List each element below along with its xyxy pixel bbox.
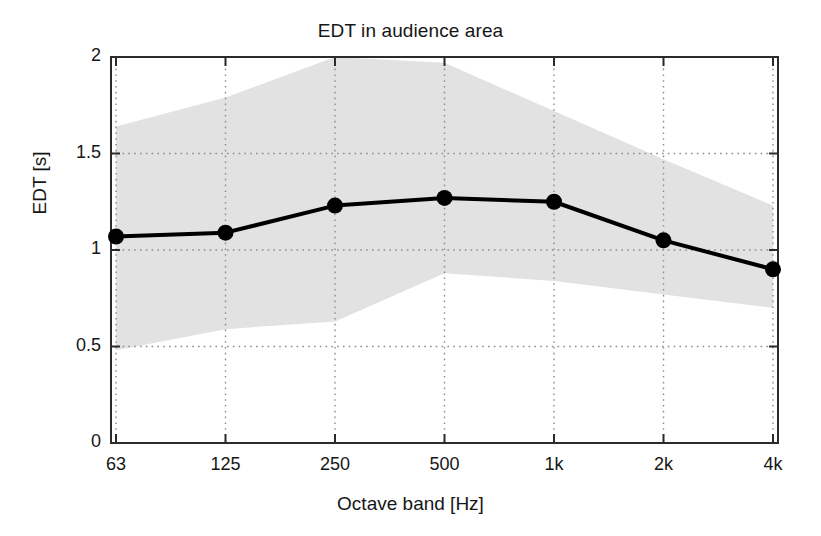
x-tick-label: 4k: [743, 454, 803, 475]
data-point-marker: [327, 198, 343, 214]
y-tick-label: 1: [41, 238, 101, 259]
x-tick-label: 125: [196, 454, 256, 475]
chart-figure: EDT in audience area EDT [s] Octave band…: [0, 0, 821, 536]
x-axis-label: Octave band [Hz]: [0, 493, 821, 515]
data-point-marker: [218, 225, 234, 241]
y-tick-label: 1.5: [41, 142, 101, 163]
data-point-marker: [546, 194, 562, 210]
y-tick-label: 0.5: [41, 335, 101, 356]
x-tick-label: 250: [305, 454, 365, 475]
y-tick-label: 2: [41, 45, 101, 66]
data-point-marker: [437, 190, 453, 206]
x-tick-label: 1k: [524, 454, 584, 475]
x-tick-label: 63: [86, 454, 146, 475]
x-tick-label: 500: [415, 454, 475, 475]
data-point-marker: [108, 228, 124, 244]
data-point-marker: [765, 261, 781, 277]
y-tick-label: 0: [41, 431, 101, 452]
x-tick-label: 2k: [634, 454, 694, 475]
data-point-marker: [656, 232, 672, 248]
